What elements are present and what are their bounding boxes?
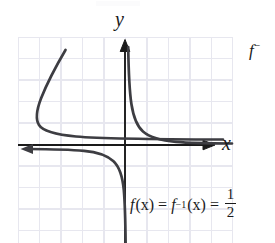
inverse-function-label: f− (249, 40, 260, 59)
equation-equals-second: = (210, 197, 219, 213)
equation-finv-exponent: −1 (176, 200, 187, 210)
x-axis-arrowhead (203, 140, 215, 150)
function-equation-label: f(x)=f−1(x)= 1 2 (130, 188, 236, 222)
math-figure-graph: y x f− f(x)=f−1(x)= 1 2 (0, 0, 275, 243)
equation-finv-argument: (x) (187, 197, 206, 213)
curve-branch-upper-right-visible (128, 47, 232, 144)
equation-equals-first: = (158, 197, 167, 213)
equation-fraction: 1 2 (225, 187, 236, 221)
x-axis-label: x (222, 133, 231, 153)
curve-branch-lower-left (28, 149, 126, 243)
inverse-function-exponent: − (254, 39, 260, 51)
y-axis-label: y (115, 9, 124, 29)
fraction-denominator: 2 (226, 205, 236, 220)
equation-f-argument: (x) (135, 197, 154, 213)
equation-f-letter: f (130, 197, 134, 213)
fraction-numerator: 1 (226, 187, 236, 202)
